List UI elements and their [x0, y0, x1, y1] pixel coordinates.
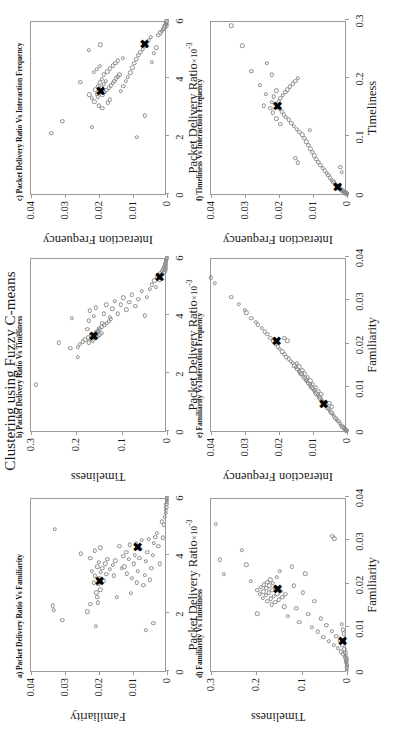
data-point [121, 295, 125, 299]
cluster-centroid-marker: ✖ [95, 85, 106, 96]
y-tick-label-e-4: 0.04 [205, 438, 216, 474]
data-point [319, 617, 323, 621]
y-tick-d-1 [302, 671, 303, 675]
y-tick-b-2 [76, 431, 77, 435]
data-point [86, 319, 90, 323]
data-point [153, 285, 157, 289]
y-tick-f-2 [279, 194, 280, 198]
data-point [146, 537, 150, 541]
x-tick-f-2 [345, 77, 349, 78]
data-point [33, 382, 37, 386]
data-point [156, 544, 160, 548]
y-tick-a-2 [99, 671, 100, 675]
data-point [265, 61, 269, 65]
data-point [137, 556, 141, 560]
x-tick-label-d-4: 0.04 [354, 489, 365, 507]
data-point [229, 24, 233, 28]
data-point [133, 304, 137, 308]
data-point [218, 557, 222, 561]
y-tick-b-0 [167, 431, 168, 435]
y-tick-c-2 [99, 194, 100, 198]
data-point [102, 311, 106, 315]
data-point [93, 548, 97, 552]
data-point [148, 577, 152, 581]
y-tick-a-1 [133, 671, 134, 675]
x-tick-a-2 [165, 554, 169, 555]
plot-area-c: ✖✖ [30, 21, 166, 195]
data-point [98, 42, 102, 46]
data-point [128, 71, 132, 75]
data-point [135, 135, 139, 139]
data-point [121, 84, 125, 88]
y-axis-label-c: Interaction Frequency [43, 232, 153, 247]
data-point [144, 559, 148, 563]
cluster-centroid-marker: ✖ [338, 636, 349, 647]
data-point [274, 89, 278, 93]
data-point [345, 662, 349, 666]
data-point [121, 554, 125, 558]
cluster-centroid-marker: ✖ [94, 575, 105, 586]
y-tick-f-3 [245, 194, 246, 198]
data-point [164, 24, 168, 28]
data-point [289, 564, 293, 568]
data-point [98, 588, 102, 592]
x-tick-f-1 [345, 135, 349, 136]
cluster-centroid-marker: ✖ [318, 399, 329, 410]
data-point [108, 98, 112, 102]
data-point [134, 57, 138, 61]
data-point [240, 43, 244, 47]
data-point [60, 618, 64, 622]
data-point [89, 569, 93, 573]
data-point [129, 591, 133, 595]
y-axis-label-e: Interaction Frequency [223, 469, 333, 484]
data-point [122, 564, 126, 568]
data-point [105, 557, 109, 561]
data-point [70, 316, 74, 320]
data-point [237, 302, 241, 306]
data-point [97, 560, 101, 564]
data-point [332, 537, 336, 541]
data-point [244, 563, 248, 567]
y-tick-label-c-4: 0.04 [25, 201, 36, 237]
data-point [149, 566, 153, 570]
data-point [132, 61, 136, 65]
x-tick-b-1 [165, 372, 169, 373]
x-tick-label-e-1: 0.01 [354, 379, 365, 397]
y-tick-f-1 [313, 194, 314, 198]
data-point [92, 314, 96, 318]
data-point [142, 114, 146, 118]
data-point [88, 602, 92, 606]
data-point [75, 355, 79, 359]
data-point [278, 569, 282, 573]
data-point [264, 92, 268, 96]
data-point [324, 623, 328, 627]
data-point [119, 303, 123, 307]
data-point [164, 264, 168, 268]
y-tick-label-c-0: 0 [161, 201, 172, 237]
data-point [282, 604, 286, 608]
x-tick-label-e-0: 0 [354, 429, 365, 434]
data-point [329, 629, 333, 633]
data-point [115, 58, 119, 62]
plot-area-e: ✖✖ [210, 258, 346, 432]
data-point [163, 515, 167, 519]
data-point [291, 584, 295, 588]
data-point [155, 531, 159, 535]
y-tick-label-d-0: 0 [341, 678, 352, 714]
data-point [319, 392, 323, 396]
y-tick-d-0 [347, 671, 348, 675]
y-axis-label-d: Timeliness [251, 709, 305, 724]
x-tick-label-d-2: 0.02 [354, 576, 365, 594]
data-point [112, 574, 116, 578]
data-point [269, 72, 273, 76]
panel-a: a) Packet Delivery Ratio Vs Familiarity✖… [28, 482, 200, 714]
data-point [312, 599, 316, 603]
data-point [340, 170, 344, 174]
x-tick-label-e-3: 0.03 [354, 292, 365, 310]
data-point [293, 156, 297, 160]
x-tick-e-1 [345, 387, 349, 388]
x-tick-label-a-3: 6 [174, 495, 185, 500]
panel-title-a: a) Packet Delivery Ratio Vs Familiarity [15, 554, 24, 678]
panel-d: d) Familiarity Vs Timeliness✖✖00.010.020… [208, 482, 380, 714]
y-tick-label-d-3: 0.3 [205, 678, 216, 714]
